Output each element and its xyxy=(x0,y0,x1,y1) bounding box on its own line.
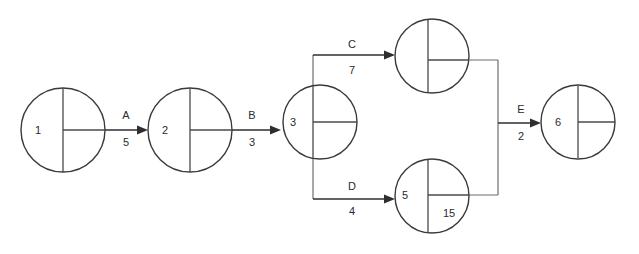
edge-d-label: D xyxy=(348,180,356,192)
node-6[interactable]: 6 xyxy=(541,85,615,159)
node-bottom-left-label: 5 xyxy=(402,189,408,201)
network-diagram: A 5 B 3 C 7 D 4 xyxy=(0,0,639,254)
edge-c-arrowhead xyxy=(384,51,395,60)
edge-e-arrowhead xyxy=(530,119,541,128)
node-1[interactable]: 1 xyxy=(21,88,105,172)
edge-b-label: B xyxy=(248,109,255,121)
edge-c-group[interactable]: C 7 xyxy=(313,38,395,76)
edge-d-group[interactable]: D 4 xyxy=(313,180,395,217)
node-6-left-label: 6 xyxy=(555,116,561,128)
edge-c-label: C xyxy=(348,38,356,50)
node-bottom-lower-right-label: 15 xyxy=(443,207,455,219)
node-top[interactable] xyxy=(395,19,469,93)
node-2[interactable]: 2 xyxy=(148,88,232,172)
edge-b-arrowhead xyxy=(270,126,281,135)
edge-a-group[interactable]: A 5 xyxy=(105,109,148,148)
node-2-left-label: 2 xyxy=(162,124,168,136)
edge-b-duration: 3 xyxy=(249,136,255,148)
node-bottom[interactable]: 5 15 xyxy=(395,159,469,233)
edge-d-duration: 4 xyxy=(349,205,355,217)
node-1-left-label: 1 xyxy=(35,124,41,136)
node-3[interactable]: 3 xyxy=(283,85,357,159)
edge-a-arrowhead xyxy=(137,126,148,135)
edge-e-group[interactable]: E 2 xyxy=(498,103,541,142)
edge-a-duration: 5 xyxy=(123,136,129,148)
node-3-left-label: 3 xyxy=(290,116,296,128)
edge-c-duration: 7 xyxy=(349,64,355,76)
edge-e-duration: 2 xyxy=(518,130,524,142)
node-top-circle xyxy=(395,19,469,93)
diagram-canvas: A 5 B 3 C 7 D 4 xyxy=(0,0,639,254)
edge-d-arrowhead xyxy=(384,195,395,204)
edge-a-label: A xyxy=(122,109,130,121)
edge-b-group[interactable]: B 3 xyxy=(232,109,281,148)
edge-e-label: E xyxy=(517,103,524,115)
